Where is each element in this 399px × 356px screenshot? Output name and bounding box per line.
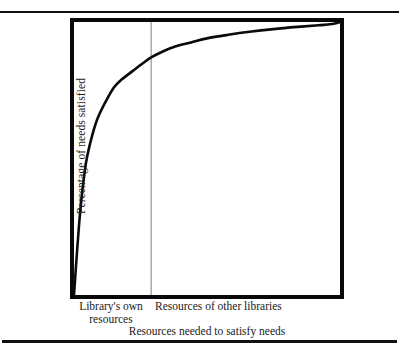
- y-axis-label: Percentage of needs satisfied: [75, 31, 87, 261]
- figure-container: Percentage of needs satisfied Library's …: [0, 0, 399, 356]
- data-curve: [74, 22, 340, 295]
- x-axis-title: Resources needed to satisfy needs: [70, 325, 344, 337]
- segment-label-other-libraries: Resources of other libraries: [155, 300, 345, 313]
- segment-label-library-own: Library's own resources: [72, 300, 150, 326]
- plot-area: Percentage of needs satisfied: [70, 18, 344, 299]
- page-rule-bottom: [2, 340, 397, 343]
- page-rule-top: [0, 11, 399, 13]
- chart-canvas: [70, 18, 344, 299]
- segment-label-library-own-line1: Library's own: [72, 300, 150, 313]
